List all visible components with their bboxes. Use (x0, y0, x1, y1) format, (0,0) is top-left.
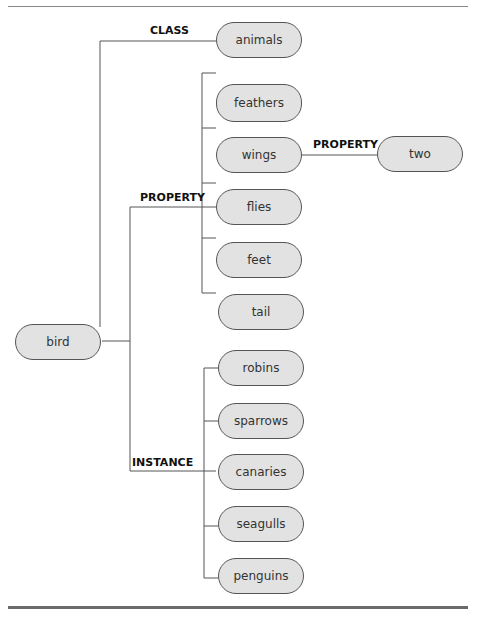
edge-label-class: CLASS (150, 24, 189, 37)
node-wings: wings (216, 137, 302, 173)
node-robins: robins (218, 350, 304, 386)
node-flies: flies (216, 189, 302, 225)
edge-label-property: PROPERTY (140, 191, 205, 204)
node-feathers: feathers (216, 84, 302, 122)
node-penguins: penguins (218, 558, 304, 594)
node-bird: bird (15, 324, 101, 360)
edge-label-instance: INSTANCE (132, 456, 193, 469)
bottom-rule (8, 606, 468, 609)
node-two: two (377, 136, 463, 172)
node-animals: animals (216, 22, 302, 58)
node-seagulls: seagulls (218, 506, 304, 542)
node-feet: feet (216, 242, 302, 278)
edge-label-wings-property: PROPERTY (313, 138, 378, 151)
node-canaries: canaries (218, 454, 304, 490)
node-tail: tail (218, 294, 304, 330)
node-sparrows: sparrows (218, 403, 304, 439)
